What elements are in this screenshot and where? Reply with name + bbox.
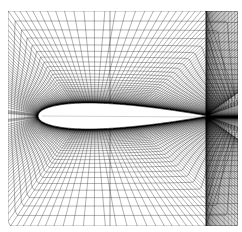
airfoil-mesh-figure: Structured C-grid mesh around a symmetri… xyxy=(0,0,242,232)
airfoil-outline-layer xyxy=(0,0,242,232)
